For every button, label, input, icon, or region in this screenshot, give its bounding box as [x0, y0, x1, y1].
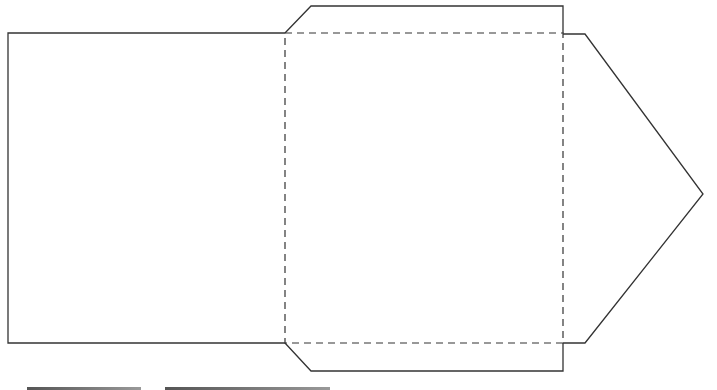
envelope-template-diagram: [0, 0, 717, 390]
left-panel-outline: [8, 33, 285, 343]
center-panel-fold-lines: [285, 33, 563, 343]
right-flap-outline: [563, 34, 703, 343]
bottom-flap-outline: [285, 343, 563, 371]
top-flap-outline: [285, 6, 563, 33]
